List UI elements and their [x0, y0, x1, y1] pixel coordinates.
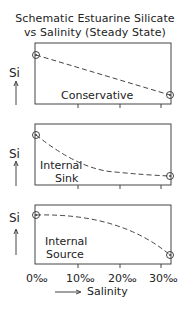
x-tick-30: 30‰	[149, 272, 178, 285]
y-label-si-2: Si	[9, 148, 20, 160]
x-tick-10: 10‰	[66, 272, 95, 285]
panel-label-source-2: Source	[46, 249, 84, 261]
y-label-si-1: Si	[9, 67, 20, 79]
panel-label-source-1: Internal	[45, 236, 87, 248]
x-tick-0: 0‰	[26, 272, 48, 285]
panel-label-conservative: Conservative	[61, 90, 133, 102]
panel-label-sink-2: Sink	[55, 173, 78, 185]
y-label-si-3: Si	[9, 212, 20, 224]
x-tick-20: 20‰	[108, 272, 137, 285]
chart-graphics	[0, 0, 190, 309]
panel-label-sink-1: Internal	[40, 160, 82, 172]
x-axis-label: Salinity	[87, 286, 128, 298]
